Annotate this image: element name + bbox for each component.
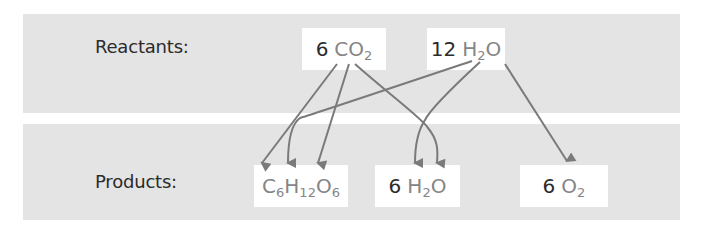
products-label: Products: — [95, 171, 177, 192]
subscript: 6 — [276, 185, 284, 200]
element-symbol: O — [486, 37, 502, 61]
coefficient: 12 — [431, 37, 456, 61]
element-symbol: O — [431, 174, 447, 198]
product-water-box: 6 H 2 O — [375, 165, 460, 207]
element-symbol: H — [284, 174, 299, 198]
subscript: 6 — [332, 185, 340, 200]
element-symbol: O — [561, 174, 577, 198]
coefficient: 6 — [389, 174, 402, 198]
element-symbol: CO — [334, 37, 364, 61]
reactants-label: Reactants: — [95, 36, 189, 57]
coefficient: 6 — [543, 174, 556, 198]
reactant-co2-box: 6 CO 2 — [302, 28, 386, 70]
element-symbol: H — [462, 37, 477, 61]
element-symbol: H — [407, 174, 422, 198]
element-symbol: O — [316, 174, 332, 198]
subscript: 2 — [577, 185, 585, 200]
element-symbol: C — [262, 174, 276, 198]
product-oxygen-box: 6 O 2 — [520, 165, 608, 207]
subscript: 2 — [364, 48, 372, 63]
subscript: 2 — [422, 185, 430, 200]
subscript: 12 — [299, 185, 316, 200]
coefficient: 6 — [316, 37, 329, 61]
subscript: 2 — [477, 48, 485, 63]
product-glucose-box: C 6 H 12 O 6 — [254, 165, 348, 207]
reactant-h2o-box: 12 H 2 O — [427, 28, 505, 70]
